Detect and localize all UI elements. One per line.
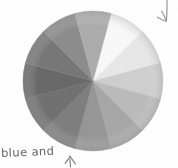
color-wheel-figure — [0, 0, 178, 168]
paper-grain-overlay — [0, 0, 178, 168]
handwritten-note: blue and — [1, 144, 55, 160]
figure-canvas: blue and — [0, 0, 178, 168]
